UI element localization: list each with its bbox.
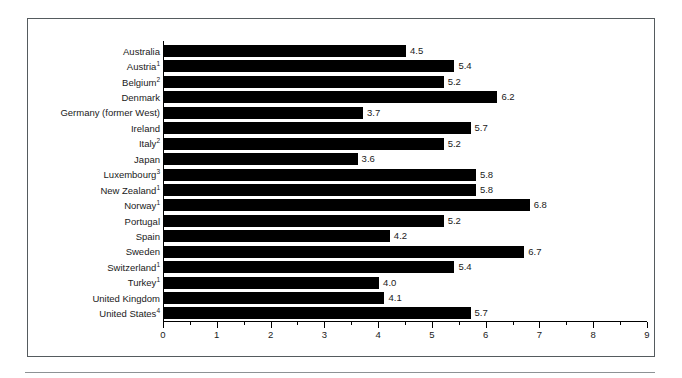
bar-row: Ireland5.7: [28, 121, 656, 136]
bar-wrapper: 5.4: [164, 60, 454, 72]
bar-row: New Zealand15.8: [28, 183, 656, 198]
category-label: United Kingdom: [92, 294, 160, 304]
bar-row: Luxembourg35.8: [28, 168, 656, 183]
bar-wrapper: 6.8: [164, 199, 530, 211]
x-tick: [593, 322, 594, 328]
bar: [164, 122, 471, 134]
category-label: Switzerland1: [107, 263, 160, 273]
category-label: Germany (former West): [60, 109, 160, 119]
bar-value-label: 6.7: [528, 247, 541, 257]
x-tick-label: 2: [268, 330, 273, 340]
x-tick-label: 5: [429, 330, 434, 340]
footnote-marker: 4: [156, 307, 160, 314]
bar-row: Sweden6.7: [28, 245, 656, 260]
bar-wrapper: 5.2: [164, 138, 444, 150]
bar-row: Portugal5.2: [28, 214, 656, 229]
x-tick: [378, 322, 379, 328]
bar-value-label: 4.5: [410, 46, 423, 56]
bar-value-label: 3.6: [362, 154, 375, 164]
bar-row: Denmark6.2: [28, 90, 656, 105]
category-label: Portugal: [125, 217, 160, 227]
bar-row: Switzerland15.4: [28, 260, 656, 275]
bar-value-label: 4.1: [388, 293, 401, 303]
footnote-marker: 1: [156, 276, 160, 283]
category-label: Ireland: [131, 124, 160, 134]
x-tick-label: 6: [483, 330, 488, 340]
chart-page: Australia4.5Austria15.4Belgium25.2Denmar…: [0, 0, 682, 378]
x-minor-tick: [244, 322, 245, 325]
x-tick-label: 0: [160, 330, 165, 340]
bar-row: Australia4.5: [28, 44, 656, 59]
bar: [164, 169, 476, 181]
bar-wrapper: 3.7: [164, 107, 363, 119]
bar-wrapper: 5.8: [164, 184, 476, 196]
footnote-marker: 1: [156, 184, 160, 191]
bar: [164, 199, 530, 211]
x-minor-tick: [513, 322, 514, 325]
x-tick-label: 4: [375, 330, 380, 340]
bar-row: Norway16.8: [28, 198, 656, 213]
bar-value-label: 5.7: [475, 123, 488, 133]
category-label: Norway1: [124, 201, 160, 211]
category-label: Belgium2: [122, 78, 160, 88]
bar-row: Italy25.2: [28, 137, 656, 152]
x-tick: [486, 322, 487, 328]
category-label: Australia: [123, 47, 160, 57]
x-tick-label: 9: [644, 330, 649, 340]
footnote-marker: 2: [156, 76, 160, 83]
category-label: Spain: [136, 232, 160, 242]
bar-row: Turkey14.0: [28, 276, 656, 291]
x-tick: [432, 322, 433, 328]
x-tick-label: 8: [591, 330, 596, 340]
bar-value-label: 6.8: [534, 201, 547, 211]
bar-wrapper: 4.5: [164, 45, 406, 57]
figure-frame: Australia4.5Austria15.4Belgium25.2Denmar…: [27, 18, 655, 357]
bar-wrapper: 6.2: [164, 91, 497, 103]
x-tick: [647, 322, 648, 328]
footnote-marker: 3: [156, 168, 160, 175]
bar: [164, 107, 363, 119]
x-tick-label: 7: [537, 330, 542, 340]
category-label: New Zealand1: [100, 186, 160, 196]
category-label: Luxembourg3: [104, 170, 160, 180]
bar: [164, 215, 444, 227]
plot-area: Australia4.5Austria15.4Belgium25.2Denmar…: [28, 19, 656, 358]
x-tick: [271, 322, 272, 328]
footnote-marker: 1: [156, 261, 160, 268]
bar: [164, 91, 497, 103]
footnote-marker: 2: [156, 137, 160, 144]
x-tick-label: 3: [322, 330, 327, 340]
x-tick: [217, 322, 218, 328]
bar-value-label: 5.2: [448, 139, 461, 149]
bar-wrapper: 5.2: [164, 76, 444, 88]
x-minor-tick: [459, 322, 460, 325]
bar-row: Germany (former West)3.7: [28, 106, 656, 121]
bar-value-label: 5.2: [448, 77, 461, 87]
x-minor-tick: [351, 322, 352, 325]
bar: [164, 246, 524, 258]
category-label: Italy2: [139, 140, 160, 150]
bar-row: Austria15.4: [28, 59, 656, 74]
x-tick-label: 1: [214, 330, 219, 340]
x-minor-tick: [297, 322, 298, 325]
category-label: United States4: [99, 309, 160, 319]
bar-wrapper: 5.7: [164, 122, 471, 134]
bar-wrapper: 6.7: [164, 246, 524, 258]
bar-row: United Kingdom4.1: [28, 291, 656, 306]
bar-value-label: 5.4: [458, 62, 471, 72]
bar-row: United States45.7: [28, 306, 656, 321]
bar-wrapper: 5.7: [164, 307, 471, 319]
bar-value-label: 5.7: [475, 309, 488, 319]
bar: [164, 277, 379, 289]
bar-value-label: 4.2: [394, 232, 407, 242]
bar-value-label: 5.4: [458, 262, 471, 272]
bar: [164, 230, 390, 242]
bar: [164, 60, 454, 72]
x-minor-tick: [190, 322, 191, 325]
bar-value-label: 4.0: [383, 278, 396, 288]
bar-row: Spain4.2: [28, 229, 656, 244]
bar-value-label: 5.8: [480, 170, 493, 180]
x-tick: [163, 322, 164, 328]
bar-wrapper: 4.2: [164, 230, 390, 242]
bar-wrapper: 3.6: [164, 153, 358, 165]
